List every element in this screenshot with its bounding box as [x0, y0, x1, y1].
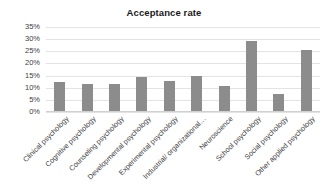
x-tick-label: Cognitive psychology [44, 115, 97, 168]
bar[interactable] [219, 86, 230, 112]
y-tick-label: 20% [25, 60, 40, 68]
acceptance-rate-bar-chart: Acceptance rate 0%5%10%15%20%25%30%35% C… [0, 0, 328, 195]
y-tick-label: 35% [25, 23, 40, 31]
y-tick-label: 0% [29, 108, 40, 116]
chart-title: Acceptance rate [0, 7, 328, 18]
y-tick-label: 5% [29, 96, 40, 104]
bar[interactable] [109, 84, 120, 111]
bar[interactable] [273, 94, 284, 111]
bar[interactable] [246, 41, 257, 111]
x-tick-label: Clinical psychology [21, 115, 69, 163]
x-axis: Clinical psychologyCognitive psychologyC… [46, 113, 320, 195]
bar[interactable] [164, 81, 175, 111]
bar[interactable] [191, 76, 202, 111]
y-axis: 0%5%10%15%20%25%30%35% [0, 27, 44, 112]
bar[interactable] [301, 50, 312, 111]
y-tick-label: 25% [25, 48, 40, 56]
plot-area [46, 27, 320, 112]
bar[interactable] [136, 77, 147, 111]
y-tick-label: 10% [25, 84, 40, 92]
y-tick-label: 30% [25, 35, 40, 43]
bars-group [46, 27, 320, 111]
bar[interactable] [82, 84, 93, 111]
y-tick-label: 15% [25, 72, 40, 80]
bar[interactable] [54, 82, 65, 111]
